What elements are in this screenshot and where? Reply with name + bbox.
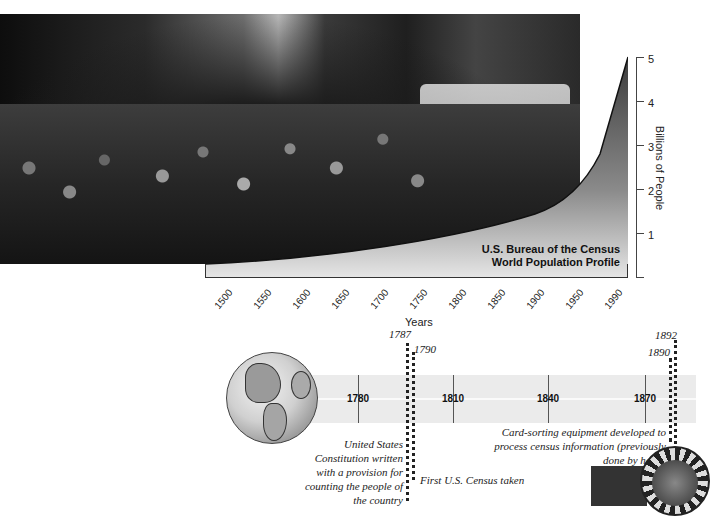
y-axis bbox=[636, 57, 637, 277]
timeline-tick-label: 1780 bbox=[347, 393, 369, 404]
source-line-1: U.S. Bureau of the Census bbox=[460, 243, 620, 256]
note-line: Constitution written bbox=[270, 451, 403, 465]
globe-icon bbox=[226, 352, 318, 444]
timeline-tick-label: 1810 bbox=[442, 393, 464, 404]
event-year-1790: 1790 bbox=[414, 343, 436, 355]
y-tick-label: 4 bbox=[648, 97, 654, 109]
event-note-1890: Card-sorting equipment developed to proc… bbox=[450, 425, 666, 467]
y-tick-label: 1 bbox=[648, 229, 654, 241]
y-tick bbox=[636, 57, 644, 58]
event-marker-1787 bbox=[406, 343, 409, 501]
continent-europe-africa bbox=[291, 371, 311, 399]
y-tick bbox=[636, 145, 644, 146]
chart-source: U.S. Bureau of the Census World Populati… bbox=[460, 243, 620, 269]
event-year-1787: 1787 bbox=[389, 328, 411, 340]
y-tick bbox=[636, 101, 644, 102]
x-tick-label: 1650 bbox=[329, 287, 352, 311]
x-tick-label: 1750 bbox=[407, 287, 430, 311]
x-tick-label: 1850 bbox=[485, 287, 508, 311]
note-line: process census information (previously bbox=[450, 439, 666, 453]
y-tick bbox=[636, 277, 644, 278]
event-marker-1892 bbox=[674, 340, 677, 462]
x-axis-title: Years bbox=[405, 316, 433, 328]
event-note-1787: United States Constitution written with … bbox=[270, 437, 403, 507]
x-tick-label: 1800 bbox=[446, 287, 469, 311]
event-marker-1790 bbox=[412, 352, 415, 480]
event-note-1790: First U.S. Census taken bbox=[420, 473, 524, 487]
population-area bbox=[205, 14, 628, 278]
y-tick bbox=[636, 233, 644, 234]
source-line-2: World Population Profile bbox=[460, 256, 620, 269]
x-tick-label: 1500 bbox=[212, 287, 235, 311]
timeline-tick-label: 1870 bbox=[634, 393, 656, 404]
continent-south-america bbox=[263, 403, 287, 441]
x-tick-label: 1990 bbox=[602, 287, 625, 311]
continent-north-america bbox=[245, 363, 281, 403]
machine-base bbox=[591, 466, 647, 506]
x-tick-label: 1900 bbox=[524, 287, 547, 311]
event-year-1890: 1890 bbox=[648, 346, 670, 358]
x-tick-label: 1600 bbox=[290, 287, 313, 311]
note-line: the country bbox=[270, 493, 403, 507]
machine-dial bbox=[652, 460, 698, 506]
note-line: counting the people of bbox=[270, 479, 403, 493]
x-tick-label: 1700 bbox=[368, 287, 391, 311]
y-tick-label: 5 bbox=[648, 53, 654, 65]
timeline-tick-label: 1840 bbox=[537, 393, 559, 404]
x-tick-label: 1950 bbox=[563, 287, 586, 311]
x-tick-label: 1550 bbox=[251, 287, 274, 311]
y-axis-title: Billions of People bbox=[654, 126, 666, 210]
note-line: Card-sorting equipment developed to bbox=[450, 425, 666, 439]
event-marker-1890 bbox=[669, 358, 672, 442]
note-line: with a provision for bbox=[270, 465, 403, 479]
y-tick bbox=[636, 189, 644, 190]
note-line: done by hand) bbox=[450, 453, 666, 467]
